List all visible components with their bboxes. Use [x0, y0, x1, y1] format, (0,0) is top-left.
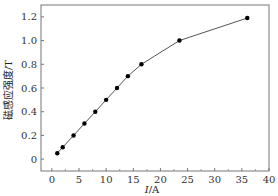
x-tick-label: 35: [235, 174, 248, 185]
x-tick-label: 30: [208, 174, 221, 185]
data-point: [126, 74, 130, 78]
y-tick-label: 0.2: [21, 130, 37, 141]
series-line: [57, 18, 247, 153]
x-tick-label: 40: [263, 174, 276, 185]
plot-border: [41, 5, 269, 171]
y-tick-label: 0: [31, 154, 37, 165]
y-axis-label: 磁感应强度/T: [2, 60, 14, 120]
x-tick-label: 25: [181, 174, 194, 185]
data-point: [104, 98, 108, 102]
data-point: [139, 62, 143, 66]
data-point: [55, 151, 59, 155]
data-point: [93, 110, 97, 114]
data-point: [82, 121, 86, 125]
data-point: [71, 133, 75, 137]
data-point: [177, 38, 181, 42]
y-tick-label: 0.8: [21, 59, 37, 70]
x-tick-label: 15: [127, 174, 140, 185]
x-tick-label: 0: [49, 174, 55, 185]
x-axis-label: I/A: [144, 184, 160, 195]
plot-frame: [41, 5, 269, 171]
x-tick-label: 5: [76, 174, 82, 185]
data-point: [245, 16, 249, 20]
y-tick-label: 0.6: [21, 83, 37, 94]
data-point: [115, 86, 119, 90]
y-tick-label: 1.2: [21, 11, 37, 22]
x-tick-label: 10: [100, 174, 113, 185]
chart: 0510152025303540 00.20.40.60.81.01.2 I/A…: [0, 0, 278, 196]
y-tick-label: 1.0: [21, 35, 37, 46]
data-series: [55, 16, 249, 156]
y-tick-label: 0.4: [21, 106, 37, 117]
data-point: [61, 145, 65, 149]
